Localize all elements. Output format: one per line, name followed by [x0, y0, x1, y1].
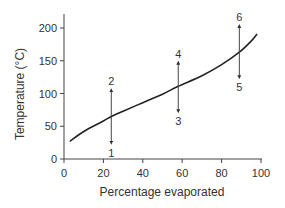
- y-axis-ticks: 050100150200: [39, 22, 64, 165]
- y-tick-label: 150: [39, 55, 57, 67]
- x-axis-ticks: 020406080100: [61, 159, 270, 179]
- distillation-chart: 050100150200 020406080100 123456 Percent…: [0, 0, 285, 208]
- annotation-label-6: 6: [236, 11, 242, 23]
- annotation-label-3: 3: [175, 115, 181, 127]
- y-tick-label: 50: [45, 120, 57, 132]
- temperature-curve: [70, 34, 257, 141]
- y-tick-label: 100: [39, 88, 57, 100]
- annotation-label-2: 2: [108, 75, 114, 87]
- x-tick-label: 20: [97, 167, 109, 179]
- annotation-label-1: 1: [108, 147, 114, 159]
- y-axis-title: Temperature (°C): [13, 48, 27, 140]
- x-tick-label: 60: [176, 167, 188, 179]
- x-tick-label: 80: [215, 167, 227, 179]
- annotation-label-4: 4: [175, 48, 181, 60]
- annotation-label-5: 5: [236, 81, 242, 93]
- x-tick-label: 100: [252, 167, 270, 179]
- annotation-arrows: 123456: [108, 11, 242, 159]
- axes: [64, 14, 262, 159]
- x-tick-label: 0: [61, 167, 67, 179]
- y-tick-label: 200: [39, 22, 57, 34]
- y-tick-label: 0: [51, 153, 57, 165]
- x-axis-title: Percentage evaporated: [100, 185, 225, 199]
- x-tick-label: 40: [137, 167, 149, 179]
